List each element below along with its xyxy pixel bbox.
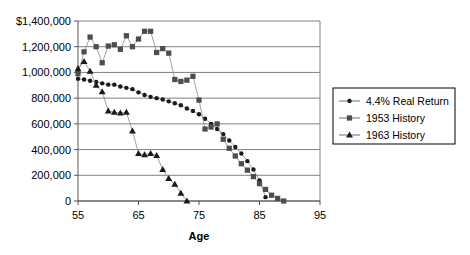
legend-marker-square-icon [347,115,352,120]
data-point [118,47,123,52]
data-point [82,77,86,81]
data-point [166,51,171,56]
data-point [123,109,130,115]
data-point [263,195,267,199]
data-point [136,90,140,94]
data-point [239,161,244,166]
series-group [75,29,287,204]
data-point [130,44,135,49]
data-point [87,34,92,39]
data-point [172,77,177,82]
data-point [124,86,128,90]
data-point [94,44,99,49]
data-point [245,159,249,163]
legend-label: 1963 History [366,129,426,141]
data-point [165,175,172,181]
data-point [208,124,213,129]
y-tick-labels: 0200,000400,000600,000800,0001,000,0001,… [16,15,71,207]
data-point [197,112,201,116]
data-point [112,82,116,86]
data-point [135,150,142,156]
y-tick-label: 0 [65,195,71,207]
data-point [147,150,154,156]
legend: 4.4% Real Return1953 History1963 History [333,88,455,144]
data-point [75,71,80,76]
data-point [87,68,94,74]
data-point [257,181,262,186]
data-point [106,82,110,86]
series-line [78,79,266,197]
chart-container: 0200,000400,000600,000800,0001,000,0001,… [0,0,470,255]
series-square [75,29,286,204]
data-point [173,101,177,105]
data-point [251,167,255,171]
data-point [105,108,112,114]
data-point [136,36,141,41]
data-point [100,81,104,85]
retirement-portfolio-chart: 0200,000400,000600,000800,0001,000,0001,… [0,0,470,255]
data-point [130,87,134,91]
y-tick-label: 400,000 [31,144,71,156]
data-point [167,99,171,103]
y-tick-label: 1,200,000 [22,41,71,53]
y-tick-label: 200,000 [31,169,71,181]
data-point [106,43,111,48]
x-axis-title: Age [189,230,210,242]
data-point [227,138,231,142]
data-point [88,79,92,83]
data-point [281,198,286,203]
x-tick-label: 65 [132,209,144,221]
x-tick-labels: 5565758595 [72,209,326,221]
data-point [184,78,189,83]
y-tick-label: $1,400,000 [16,15,71,27]
data-point [191,109,195,113]
data-point [76,77,80,81]
data-point [190,74,195,79]
data-point [118,84,122,88]
data-point [251,174,256,179]
data-point [154,96,158,100]
data-point [159,166,166,172]
y-tick-label: 1,000,000 [22,66,71,78]
data-point [148,95,152,99]
data-point [160,46,165,51]
data-point [227,146,232,151]
data-point [202,126,207,131]
data-point [233,145,237,149]
data-point [112,42,117,47]
data-point [215,121,220,126]
data-point [269,193,274,198]
legend-marker-circle-icon [347,99,351,103]
data-point [196,97,201,102]
data-point [239,151,243,155]
data-point [179,103,183,107]
y-tick-label: 600,000 [31,118,71,130]
x-tick-label: 75 [193,209,205,221]
data-point [148,29,153,34]
data-point [81,49,86,54]
data-point [245,168,250,173]
data-point [178,79,183,84]
data-point [154,50,159,55]
data-point [124,33,129,38]
data-point [275,196,280,201]
data-point [233,153,238,158]
data-point [142,93,146,97]
data-point [221,137,226,142]
data-point [263,187,268,192]
x-tick-label: 55 [72,209,84,221]
data-point [142,29,147,34]
legend-label: 1953 History [366,112,426,124]
data-point [129,127,136,133]
x-tick-label: 85 [253,209,265,221]
y-axis [74,21,78,201]
data-point [177,190,184,196]
legend-label: 4.4% Real Return [366,95,449,107]
x-tick-label: 95 [314,209,326,221]
data-point [100,60,105,65]
data-point [185,106,189,110]
data-point [161,97,165,101]
y-tick-label: 800,000 [31,92,71,104]
